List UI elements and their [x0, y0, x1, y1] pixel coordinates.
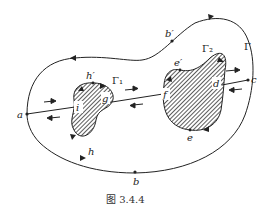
label-h-prime: h′ [86, 70, 95, 81]
point-b-prime [170, 39, 173, 42]
point-e-prime [179, 69, 182, 72]
point-b [133, 170, 136, 173]
figure-caption: 图 3.4.4 [106, 194, 145, 205]
hole-gamma-2 [163, 53, 226, 130]
label-gamma-2: Γ₂ [202, 43, 213, 54]
point-e [189, 129, 192, 132]
arrow-icon-outer-top [70, 55, 76, 61]
point-c [246, 78, 249, 81]
label-gamma-1: Γ₁ [112, 75, 123, 86]
arrow-icon-outer-bottom [80, 155, 86, 161]
cut-g-f [112, 94, 163, 102]
figure-diagram: a b b′ c h Γ Γ₁ h′ i g Γ₂ e′ f d e 图 3.4… [0, 0, 269, 215]
label-g: g [102, 93, 108, 104]
point-a [25, 112, 28, 115]
arrow-icon-hole1-bottom [70, 134, 76, 140]
cut-d-c [222, 80, 248, 85]
label-h: h [88, 146, 94, 157]
label-i: i [76, 102, 79, 113]
label-c: c [251, 74, 257, 85]
label-b-prime: b′ [165, 28, 174, 39]
label-a: a [17, 109, 23, 120]
label-d: d [213, 78, 219, 89]
label-e: e [187, 132, 193, 143]
cut-a-i [27, 107, 75, 114]
label-gamma: Γ [244, 41, 251, 52]
label-b: b [133, 176, 139, 187]
label-e-prime: e′ [174, 57, 183, 68]
point-h-prime [92, 82, 95, 85]
